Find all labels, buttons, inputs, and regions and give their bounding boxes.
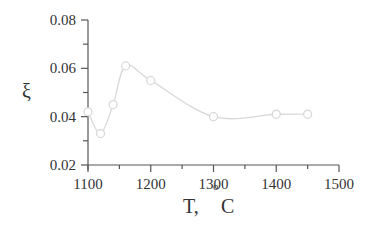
data-point xyxy=(304,110,312,118)
data-point xyxy=(122,62,130,70)
x-axis-unit-degree: o xyxy=(213,180,219,192)
data-point xyxy=(210,113,218,121)
data-point xyxy=(97,130,105,138)
x-tick-label: 1500 xyxy=(324,176,354,192)
y-tick-label: 0.02 xyxy=(50,157,76,173)
x-axis-unit: C xyxy=(221,195,234,217)
chart: 0.020.040.060.0811001200130014001500 ξ T… xyxy=(0,0,369,230)
y-tick-label: 0.08 xyxy=(50,12,76,28)
data-point xyxy=(272,110,280,118)
y-tick-label: 0.06 xyxy=(50,60,77,76)
x-axis-label: T, xyxy=(183,195,199,217)
data-point xyxy=(84,108,92,116)
x-tick-label: 1100 xyxy=(73,176,102,192)
axes xyxy=(88,20,339,170)
x-tick-label: 1200 xyxy=(136,176,166,192)
y-axis-label: ξ xyxy=(22,80,31,102)
x-tick-label: 1400 xyxy=(261,176,291,192)
data-point xyxy=(147,76,155,84)
series-line xyxy=(88,65,308,134)
data-point xyxy=(109,101,117,109)
y-tick-label: 0.04 xyxy=(50,109,77,125)
series xyxy=(84,62,312,138)
